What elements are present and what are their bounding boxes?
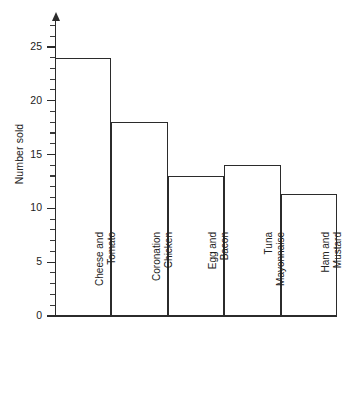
- bar-chart: Number sold 0510152025 Cheese andTomatoC…: [0, 0, 353, 402]
- y-tick-label: 15: [12, 149, 42, 160]
- category-label-line-2: Mayonnaise: [275, 232, 287, 322]
- category-label-line-2: Mustard: [331, 232, 343, 322]
- y-tick-major: [47, 46, 55, 47]
- x-axis-category-label: CoronationChicken: [151, 232, 167, 322]
- y-tick-label: 5: [12, 256, 42, 267]
- y-tick-major: [47, 262, 55, 263]
- category-label-line-1: Egg and: [207, 232, 219, 322]
- y-tick-minor: [50, 36, 55, 37]
- y-tick-minor: [50, 25, 55, 26]
- category-label-line-1: Coronation: [151, 232, 163, 322]
- y-tick-label: 0: [12, 310, 42, 321]
- category-label-line-2: Chicken: [162, 232, 174, 322]
- y-tick-major: [47, 154, 55, 155]
- y-tick-label: 25: [12, 41, 42, 52]
- y-axis-arrow-icon: [52, 12, 60, 21]
- y-tick-major: [47, 100, 55, 101]
- category-label-line-1: Tuna: [263, 232, 275, 322]
- y-tick-major: [47, 315, 55, 316]
- category-label-line-1: Cheese and: [94, 232, 106, 322]
- category-label-line-1: Ham and: [320, 232, 332, 322]
- x-axis-category-label: Egg andBacon: [207, 232, 223, 322]
- category-label-line-2: Bacon: [219, 232, 231, 322]
- y-tick-label: 20: [12, 95, 42, 106]
- x-axis-category-label: TunaMayonnaise: [263, 232, 279, 322]
- y-tick-label: 10: [12, 202, 42, 213]
- x-axis-category-label: Cheese andTomato: [94, 232, 110, 322]
- x-axis-category-label: Ham andMustard: [320, 232, 336, 322]
- category-label-line-2: Tomato: [106, 232, 118, 322]
- y-tick-major: [47, 208, 55, 209]
